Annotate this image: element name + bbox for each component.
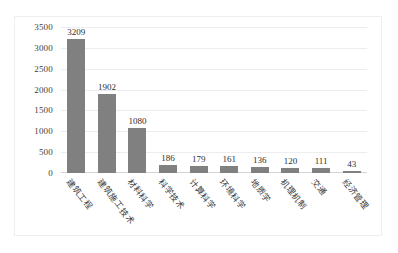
x-axis-category: 材料科学	[122, 174, 153, 236]
bar-item[interactable]: 161	[214, 27, 245, 173]
y-axis-tick-label: 2500	[34, 64, 53, 74]
bar-value-label: 43	[347, 159, 356, 170]
bar-value-label: 161	[223, 154, 237, 165]
bar-rect[interactable]	[190, 166, 208, 173]
x-axis-category-label: 经济管理	[340, 176, 372, 212]
bar-value-label: 179	[192, 154, 206, 165]
bar-value-label: 1080	[128, 116, 146, 127]
chart-frame: 0500100015002000250030003500 32091902108…	[14, 16, 382, 236]
bar-rect[interactable]	[67, 39, 85, 173]
y-axis-tick-label: 1000	[34, 126, 53, 136]
x-axis-category-label: 地质学	[248, 176, 274, 205]
bar-item[interactable]: 186	[153, 27, 184, 173]
bar-rect[interactable]	[220, 166, 238, 173]
y-axis-tick-label: 500	[39, 147, 53, 157]
x-axis-category-label: 交通	[310, 176, 331, 198]
bar-rect[interactable]	[128, 128, 146, 173]
x-axis-category: 建筑工程	[61, 174, 92, 236]
x-axis-category: 机理机制	[275, 174, 306, 236]
y-axis-tick-label: 2000	[34, 85, 53, 95]
bar-rect[interactable]	[98, 94, 116, 173]
bar-rect[interactable]	[251, 167, 269, 173]
bar-value-label: 1902	[98, 82, 116, 93]
y-axis: 0500100015002000250030003500	[15, 27, 57, 173]
bar-rect[interactable]	[312, 168, 330, 173]
bar-value-label: 111	[315, 156, 328, 167]
y-axis-tick-label: 3500	[34, 22, 53, 32]
x-axis-category: 科学技术	[153, 174, 184, 236]
bar-item[interactable]: 43	[336, 27, 367, 173]
plot-area: 32091902108018617916113612011143	[61, 27, 367, 173]
bar-rect[interactable]	[281, 168, 299, 173]
x-axis-category: 建筑施工技术	[92, 174, 123, 236]
bar-series: 32091902108018617916113612011143	[61, 27, 367, 173]
bar-item[interactable]: 111	[306, 27, 337, 173]
x-axis-category: 环境科学	[214, 174, 245, 236]
bar-item[interactable]: 120	[275, 27, 306, 173]
bar-item[interactable]: 3209	[61, 27, 92, 173]
bar-value-label: 136	[253, 155, 267, 166]
x-axis-category: 交通	[306, 174, 337, 236]
bar-rect[interactable]	[159, 165, 177, 173]
y-axis-tick-label: 0	[48, 168, 53, 178]
bar-value-label: 120	[284, 156, 298, 167]
x-axis-category: 计算科学	[183, 174, 214, 236]
x-axis: 建筑工程建筑施工技术材料科学科学技术计算科学环境科学地质学机理机制交通经济管理	[61, 174, 367, 236]
x-axis-category: 地质学	[245, 174, 276, 236]
y-axis-tick-label: 1500	[34, 105, 53, 115]
bar-item[interactable]: 1080	[122, 27, 153, 173]
bar-value-label: 186	[161, 153, 175, 164]
y-axis-tick-label: 3000	[34, 43, 53, 53]
bar-value-label: 3209	[67, 27, 85, 38]
bar-item[interactable]: 1902	[92, 27, 123, 173]
x-axis-category: 经济管理	[336, 174, 367, 236]
bar-item[interactable]: 179	[183, 27, 214, 173]
bar-rect[interactable]	[343, 171, 361, 173]
bar-item[interactable]: 136	[245, 27, 276, 173]
